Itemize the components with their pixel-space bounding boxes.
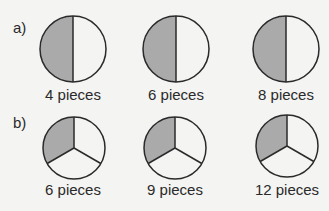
circle-b-1 bbox=[43, 117, 105, 179]
circle-a-2 bbox=[143, 16, 209, 82]
caption-b-2: 9 pieces bbox=[130, 181, 220, 198]
caption-b-3: 12 pieces bbox=[242, 181, 329, 198]
circle-a-1 bbox=[40, 16, 106, 82]
circle-a-3 bbox=[253, 16, 319, 82]
caption-a-1: 4 pieces bbox=[28, 86, 118, 103]
fraction-circles bbox=[0, 0, 329, 211]
caption-a-2: 6 pieces bbox=[131, 86, 221, 103]
caption-a-3: 8 pieces bbox=[241, 86, 329, 103]
circle-b-2 bbox=[144, 117, 206, 179]
circle-b-3 bbox=[256, 115, 318, 177]
caption-b-1: 6 pieces bbox=[28, 181, 118, 198]
